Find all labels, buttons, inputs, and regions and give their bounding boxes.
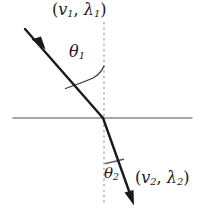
refracted-ray bbox=[103, 118, 132, 198]
theta-2-arc bbox=[106, 159, 124, 163]
theta-1-subscript: 1 bbox=[79, 50, 85, 61]
theta-2-symbol: θ bbox=[104, 164, 113, 182]
theta-1-arc bbox=[66, 66, 105, 89]
close-paren-1: ) bbox=[100, 0, 106, 19]
speed-symbol-1: v bbox=[58, 0, 67, 19]
theta-2-subscript: 2 bbox=[113, 171, 119, 182]
refracted-medium-properties-label: (v2, λ2) bbox=[135, 170, 189, 187]
refraction-diagram: (v1, λ1) (v2, λ2) θ1 θ2 bbox=[0, 0, 199, 208]
comma-2: , bbox=[157, 168, 167, 187]
angle-of-refraction-label: θ2 bbox=[104, 166, 119, 181]
close-paren-2: ) bbox=[183, 168, 189, 187]
wavelength-symbol-1: λ bbox=[84, 0, 94, 19]
wavelength-symbol-2: λ bbox=[167, 168, 177, 187]
comma-1: , bbox=[74, 0, 84, 19]
speed-symbol-2: v bbox=[141, 168, 150, 187]
theta-1-symbol: θ bbox=[69, 42, 79, 61]
angle-of-incidence-label: θ1 bbox=[69, 44, 85, 61]
incident-medium-properties-label: (v1, λ1) bbox=[52, 2, 106, 19]
refracted-ray-arrowhead bbox=[125, 190, 135, 206]
